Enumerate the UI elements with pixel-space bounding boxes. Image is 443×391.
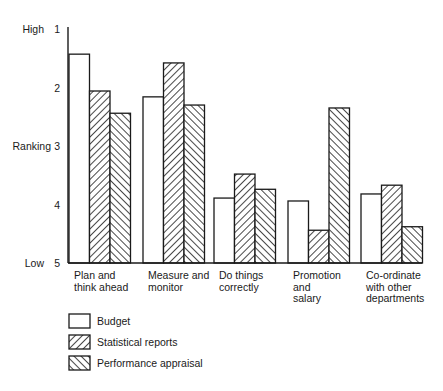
y-tick-label: 2 — [54, 82, 60, 94]
legend-swatch — [69, 356, 90, 370]
x-tick-label: correctly — [219, 281, 259, 293]
x-tick-label: think ahead — [74, 281, 128, 293]
bar-statistical-reports — [382, 185, 403, 263]
bar-performance-appraisal — [110, 113, 131, 263]
bar-statistical-reports — [309, 230, 330, 263]
bar-budget — [69, 54, 90, 263]
y-axis-title: Ranking — [12, 140, 51, 152]
bar-statistical-reports — [164, 63, 185, 263]
y-end-label-low: Low — [25, 257, 45, 269]
bar-performance-appraisal — [402, 227, 423, 263]
legend-swatch — [69, 335, 90, 349]
y-tick-label: 5 — [54, 257, 60, 269]
bar-chart: 12345HighLowRanking Plan andthink aheadM… — [0, 0, 443, 391]
x-tick-label: Promotion — [293, 269, 341, 281]
legend-label: Budget — [97, 315, 130, 327]
bar-budget — [361, 194, 382, 263]
x-tick-label: Co-ordinate — [366, 269, 421, 281]
legend: BudgetStatistical reportsPerformance app… — [69, 314, 203, 370]
legend-label: Statistical reports — [97, 336, 178, 348]
x-tick-label: departments — [366, 292, 424, 304]
y-tick-label: 4 — [54, 199, 60, 211]
x-tick-label: monitor — [148, 281, 184, 293]
x-tick-label: Plan and — [74, 269, 116, 281]
bar-budget — [288, 201, 309, 263]
x-tick-label: Do things — [219, 269, 263, 281]
bar-statistical-reports — [90, 91, 111, 263]
legend-label: Performance appraisal — [97, 357, 203, 369]
y-tick-label: 3 — [54, 140, 60, 152]
bars-group — [69, 54, 423, 263]
bar-statistical-reports — [235, 174, 256, 263]
x-tick-label: Measure and — [148, 269, 209, 281]
y-end-label-high: High — [22, 23, 44, 35]
x-tick-label: and — [293, 281, 311, 293]
bar-performance-appraisal — [184, 105, 205, 263]
bar-performance-appraisal — [329, 108, 350, 263]
bar-budget — [143, 97, 164, 263]
bar-performance-appraisal — [255, 189, 276, 263]
x-tick-label: salary — [293, 292, 322, 304]
x-axis-labels: Plan andthink aheadMeasure andmonitorDo … — [74, 269, 424, 304]
bar-budget — [214, 198, 235, 263]
legend-swatch — [69, 314, 90, 328]
y-tick-label: 1 — [54, 23, 60, 35]
x-tick-label: with other — [365, 281, 412, 293]
